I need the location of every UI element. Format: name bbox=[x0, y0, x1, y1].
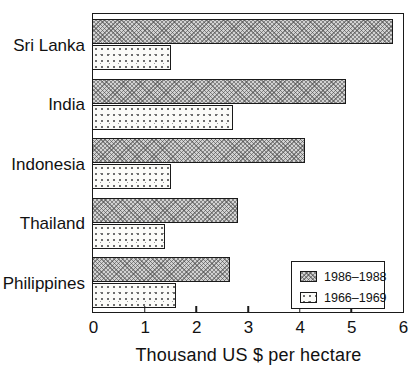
x-tick-label-3: 3 bbox=[244, 318, 253, 338]
x-axis-tick-labels: 0123456 bbox=[92, 318, 405, 338]
bar-group-india bbox=[93, 74, 403, 134]
bar-group-indonesia bbox=[93, 133, 403, 193]
legend-label-1966-1969: 1966–1969 bbox=[324, 291, 387, 305]
category-label-philippines: Philippines bbox=[0, 274, 85, 294]
x-tick-mark bbox=[144, 306, 146, 312]
legend-label-1986-1988: 1986–1988 bbox=[324, 270, 387, 284]
category-label-india: India bbox=[0, 95, 85, 115]
category-label-indonesia: Indonesia bbox=[0, 155, 85, 175]
legend-swatch-dotted-icon bbox=[300, 292, 317, 303]
bar-dotted-india bbox=[93, 105, 233, 130]
x-tick-mark bbox=[196, 306, 198, 312]
category-label-thailand: Thailand bbox=[0, 214, 85, 234]
x-tick-label-6: 6 bbox=[399, 318, 408, 338]
x-tick-label-4: 4 bbox=[295, 318, 304, 338]
bar-group-sri-lanka bbox=[93, 14, 403, 74]
bar-group-thailand bbox=[93, 193, 403, 253]
x-tick-mark bbox=[247, 306, 249, 312]
bar-hatched-thailand bbox=[93, 198, 238, 223]
x-tick-label-5: 5 bbox=[347, 318, 356, 338]
category-label-sri-lanka: Sri Lanka bbox=[0, 36, 85, 56]
bar-hatched-indonesia bbox=[93, 138, 305, 163]
x-tick-label-0: 0 bbox=[89, 318, 98, 338]
legend-entry: 1986–1988 bbox=[300, 268, 384, 285]
legend-entry: 1966–1969 bbox=[300, 289, 384, 306]
bar-hatched-sri-lanka bbox=[93, 19, 393, 44]
bar-dotted-sri-lanka bbox=[93, 45, 171, 70]
y-axis-category-labels: Sri LankaIndiaIndonesiaThailandPhilippin… bbox=[0, 13, 85, 314]
x-axis-title: Thousand US $ per hectare bbox=[92, 345, 405, 366]
legend: 1986–1988 1966–1969 bbox=[291, 261, 385, 309]
bar-dotted-philippines bbox=[93, 283, 176, 308]
x-tick-label-2: 2 bbox=[192, 318, 201, 338]
legend-swatch-hatched-icon bbox=[300, 271, 317, 282]
bar-dotted-indonesia bbox=[93, 164, 171, 189]
bar-hatched-philippines bbox=[93, 257, 230, 282]
bar-chart-figure: Sri LankaIndiaIndonesiaThailandPhilippin… bbox=[0, 0, 419, 381]
x-tick-label-1: 1 bbox=[140, 318, 149, 338]
bar-hatched-india bbox=[93, 79, 346, 104]
bar-dotted-thailand bbox=[93, 224, 165, 249]
